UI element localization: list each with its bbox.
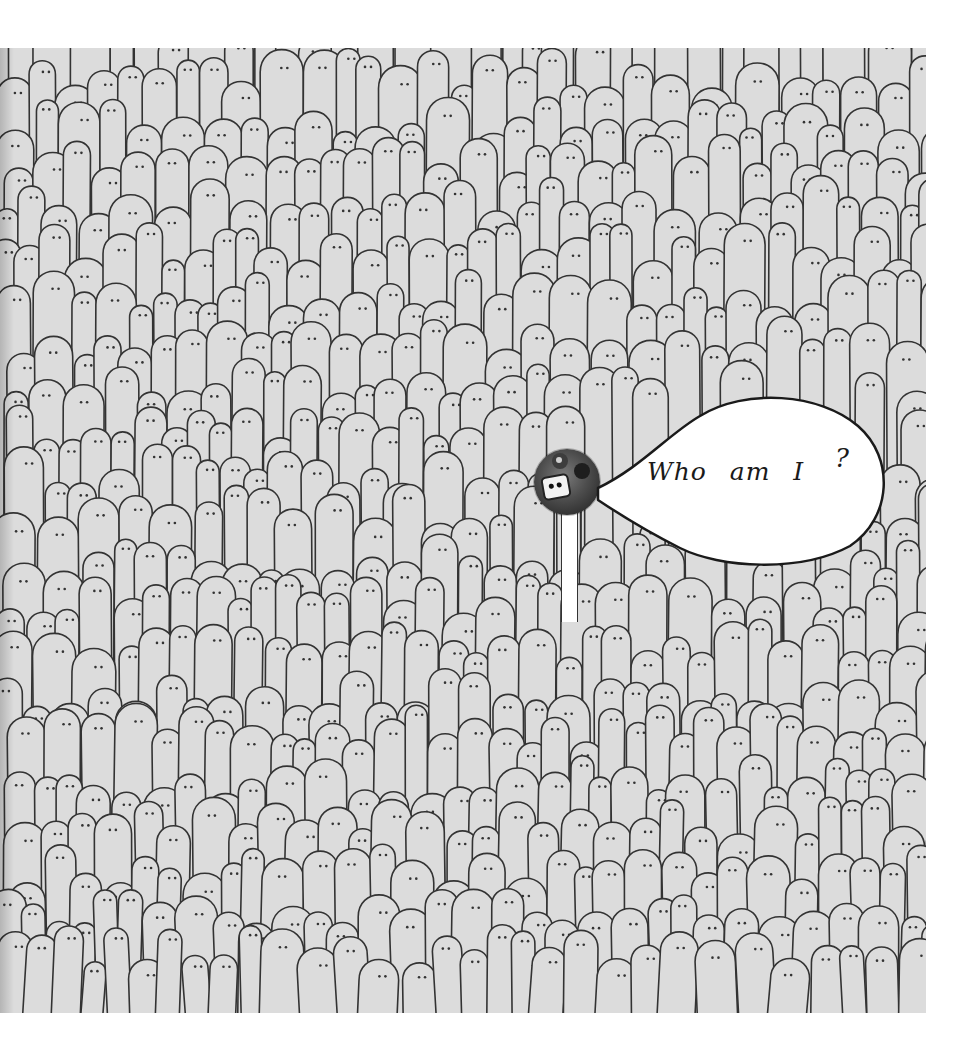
- page: Who am I ?: [0, 0, 973, 1060]
- speech-bubble-text: Who am I: [647, 457, 847, 497]
- speech-bubble: [0, 48, 926, 1013]
- speech-bubble-question-mark: ?: [835, 443, 849, 473]
- crowd-illustration: Who am I ?: [0, 48, 926, 1013]
